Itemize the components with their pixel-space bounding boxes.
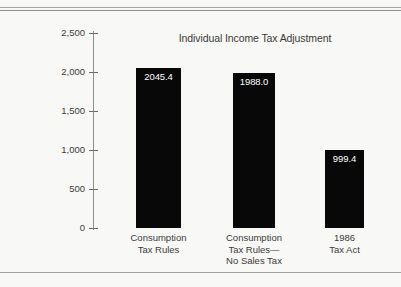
y-axis-tick [89,33,98,34]
x-axis-category-label: 1986Tax Act [295,232,395,255]
x-axis-category-label-line: Tax Act [295,244,395,256]
x-axis-category-label: ConsumptionTax Rules—No Sales Tax [204,232,304,267]
y-axis-tick-label-text: 1,000 [37,144,85,155]
x-axis-category-label-line: Tax Rules— [204,244,304,256]
x-axis-category-label-line: Consumption [109,232,209,244]
bar-chart: Individual Income Tax Adjustment 05001,0… [0,0,401,287]
x-axis-category-label-line: 1986 [295,232,395,244]
y-axis-tick-label-text: 2,000 [37,66,85,77]
bar-value-label: 1988.0 [233,76,275,87]
y-axis-tick [89,150,98,151]
y-axis-tick [89,111,98,112]
chart-title: Individual Income Tax Adjustment [150,32,360,44]
y-axis-tick-label: 1,000 [33,144,85,156]
y-axis-tick-label: 2,000 [33,66,85,78]
x-axis-category-label-line: Tax Rules [109,244,209,256]
bar: 2045.4 [136,68,181,228]
x-axis-category-label-line: Consumption [204,232,304,244]
bar-value-label: 2045.4 [136,71,181,82]
y-axis-line [93,31,94,230]
y-axis-tick-label: 0 [33,222,85,234]
bar-value-label: 999.4 [325,153,364,164]
y-axis-tick [89,228,98,229]
y-axis-tick-label-text: 0 [37,222,85,233]
figure-panel: Individual Income Tax Adjustment 05001,0… [0,0,401,287]
y-axis-tick-label: 1,500 [33,105,85,117]
y-axis-tick-label-text: 500 [37,183,85,194]
y-axis-tick-label: 500 [33,183,85,195]
x-axis-category-label: ConsumptionTax Rules [109,232,209,255]
y-axis-tick [89,72,98,73]
y-axis-tick [89,189,98,190]
y-axis-tick-label-text: 1,500 [37,105,85,116]
y-axis-tick-label-text: 2,500 [37,27,85,38]
y-axis-tick-label: 2,500 [33,27,85,39]
bar: 1988.0 [233,73,275,228]
x-axis-category-label-line: No Sales Tax [204,255,304,267]
bar: 999.4 [325,150,364,228]
